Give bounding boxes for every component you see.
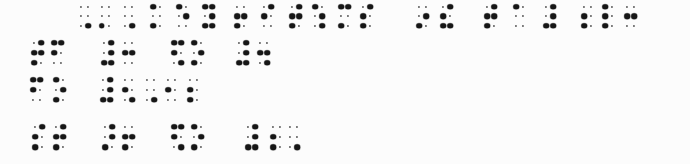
- raised-dot: [320, 13, 326, 19]
- raised-dot: [176, 4, 182, 10]
- empty-dot-mark: [340, 15, 342, 17]
- raised-dot: [484, 13, 490, 19]
- raised-dot: [184, 13, 190, 19]
- empty-dot-mark: [314, 15, 316, 17]
- raised-dot: [551, 4, 557, 10]
- raised-dot: [31, 50, 37, 56]
- raised-dot: [101, 60, 107, 66]
- empty-dot-mark: [80, 5, 82, 7]
- raised-dot: [581, 13, 587, 19]
- empty-dot-mark: [180, 136, 182, 138]
- raised-dot: [245, 144, 251, 150]
- raised-dot: [110, 134, 116, 140]
- raised-dot: [109, 60, 115, 66]
- empty-dot-mark: [442, 5, 444, 7]
- raised-dot: [171, 124, 177, 130]
- empty-dot-mark: [174, 98, 176, 100]
- raised-dot: [100, 97, 106, 103]
- empty-dot-mark: [111, 146, 113, 148]
- empty-dot-mark: [193, 136, 195, 138]
- raised-dot: [581, 23, 587, 29]
- raised-dot: [38, 77, 44, 83]
- empty-dot-mark: [238, 41, 240, 43]
- empty-dot-mark: [189, 78, 191, 80]
- raised-dot: [551, 23, 557, 29]
- empty-dot-mark: [590, 24, 592, 26]
- raised-dot: [320, 23, 326, 29]
- empty-dot-mark: [515, 15, 517, 17]
- empty-dot-mark: [102, 78, 104, 80]
- empty-dot-mark: [34, 125, 36, 127]
- empty-dot-mark: [124, 41, 126, 43]
- empty-dot-mark: [200, 41, 202, 43]
- raised-dot: [30, 77, 36, 83]
- empty-dot-mark: [298, 24, 300, 26]
- empty-dot-mark: [611, 5, 613, 7]
- raised-dot: [99, 23, 105, 29]
- raised-dot: [269, 4, 275, 10]
- empty-dot-mark: [296, 136, 298, 138]
- empty-dot-mark: [131, 78, 133, 80]
- empty-dot-mark: [104, 125, 106, 127]
- raised-dot: [199, 134, 205, 140]
- raised-dot: [297, 13, 303, 19]
- raised-dot: [602, 4, 608, 10]
- empty-dot-mark: [263, 5, 265, 7]
- empty-dot-mark: [243, 24, 245, 26]
- empty-dot-mark: [611, 15, 613, 17]
- empty-dot-mark: [279, 136, 281, 138]
- raised-dot: [171, 50, 177, 56]
- empty-dot-mark: [131, 61, 133, 63]
- empty-dot-mark: [263, 24, 265, 26]
- empty-dot-mark: [40, 61, 42, 63]
- raised-dot: [179, 40, 185, 46]
- raised-dot: [448, 23, 454, 29]
- raised-dot: [179, 124, 185, 130]
- raised-dot: [202, 23, 208, 29]
- empty-dot-mark: [193, 51, 195, 53]
- raised-dot: [253, 124, 259, 130]
- empty-dot-mark: [124, 24, 126, 26]
- empty-dot-mark: [124, 5, 126, 7]
- empty-dot-mark: [33, 41, 35, 43]
- empty-dot-mark: [185, 24, 187, 26]
- empty-dot-mark: [103, 51, 105, 53]
- raised-dot: [312, 4, 318, 10]
- empty-dot-mark: [131, 88, 133, 90]
- raised-dot: [543, 23, 549, 29]
- empty-dot-mark: [238, 51, 240, 53]
- raised-dot: [187, 97, 193, 103]
- raised-dot: [122, 87, 128, 93]
- empty-dot-mark: [153, 88, 155, 90]
- empty-dot-mark: [270, 24, 272, 26]
- empty-dot-mark: [173, 146, 175, 148]
- raised-dot: [165, 87, 171, 93]
- raised-dot: [171, 134, 177, 140]
- empty-dot-mark: [321, 5, 323, 7]
- empty-dot-mark: [200, 61, 202, 63]
- empty-dot-mark: [32, 98, 34, 100]
- raised-dot: [257, 50, 263, 56]
- raised-dot: [171, 40, 177, 46]
- empty-dot-mark: [100, 15, 102, 17]
- empty-dot-mark: [146, 98, 148, 100]
- raised-dot: [368, 4, 374, 10]
- raised-dot: [130, 50, 136, 56]
- raised-dot: [191, 60, 197, 66]
- raised-dot: [191, 40, 197, 46]
- empty-dot-mark: [236, 5, 238, 7]
- empty-dot-mark: [174, 88, 176, 90]
- raised-dot: [150, 23, 156, 29]
- raised-dot: [191, 144, 197, 150]
- raised-dot: [244, 60, 250, 66]
- raised-dot: [440, 13, 446, 19]
- raised-dot: [289, 23, 295, 29]
- empty-dot-mark: [289, 146, 291, 148]
- raised-dot: [53, 97, 59, 103]
- raised-dot: [270, 134, 276, 140]
- empty-dot-mark: [545, 5, 547, 7]
- raised-dot: [234, 23, 240, 29]
- empty-dot-mark: [200, 125, 202, 127]
- empty-dot-mark: [62, 146, 64, 148]
- empty-dot-mark: [41, 136, 43, 138]
